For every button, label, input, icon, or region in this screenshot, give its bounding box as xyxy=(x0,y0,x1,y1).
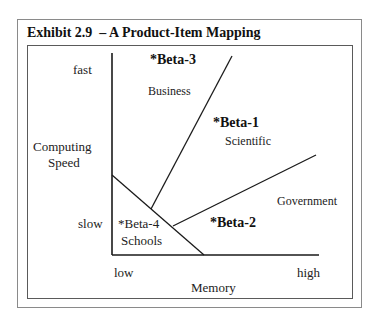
region-segment-government: Government xyxy=(277,194,337,209)
y-axis-label-line1: Computing xyxy=(33,139,92,155)
region-segment-scientific: Scientific xyxy=(225,134,271,149)
region-segment-business: Business xyxy=(148,84,191,99)
y-high-label: fast xyxy=(73,62,92,78)
business-scientific-boundary xyxy=(151,56,232,209)
region-product-beta-2: *Beta-2 xyxy=(210,215,256,231)
x-high-label: high xyxy=(297,265,320,281)
y-axis-label-line2: Speed xyxy=(48,155,80,171)
region-product-beta-1: *Beta-1 xyxy=(213,115,259,131)
x-axis-label: Memory xyxy=(191,280,236,296)
y-low-label: slow xyxy=(78,216,103,232)
region-product-beta-4: *Beta-4 xyxy=(118,216,159,232)
region-product-beta-3: *Beta-3 xyxy=(150,52,196,68)
x-low-label: low xyxy=(114,265,134,281)
region-segment-schools: Schools xyxy=(121,233,162,249)
